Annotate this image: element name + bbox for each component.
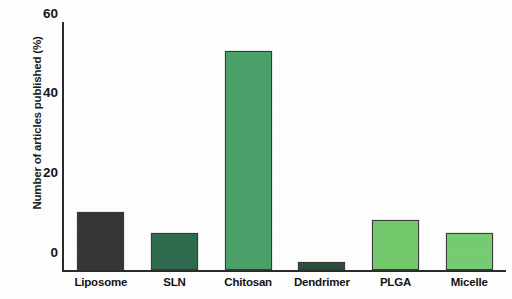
bar-slot-chitosan: [212, 22, 285, 270]
x-tick-sln: SLN: [138, 276, 211, 288]
x-tick-micelle: Micelle: [433, 276, 506, 288]
bar-slot-plga: [359, 22, 432, 270]
x-tick-chitosan: Chitosan: [212, 276, 285, 288]
y-axis-tick-labels: 60 40 20 0: [22, 0, 58, 299]
bar-chitosan: [225, 51, 272, 270]
y-tick-40: 40: [24, 86, 58, 100]
bar-chart-figure: Number of articles published (%) 60 40 2…: [0, 0, 512, 299]
bar-micelle: [446, 233, 493, 270]
x-tick-liposome: Liposome: [64, 276, 137, 288]
bar-slot-sln: [138, 22, 211, 270]
y-tick-0: 0: [24, 246, 58, 260]
bar-plga: [372, 220, 419, 270]
x-tick-dendrimer: Dendrimer: [285, 276, 358, 288]
bar-sln: [151, 233, 198, 270]
y-tick-60: 60: [24, 7, 58, 21]
bar-series: [64, 22, 506, 270]
bar-slot-micelle: [433, 22, 506, 270]
bar-slot-liposome: [64, 22, 137, 270]
x-axis-spine: [62, 270, 506, 272]
bar-dendrimer: [298, 262, 345, 270]
x-axis-tick-labels: LiposomeSLNChitosanDendrimerPLGAMicelle: [64, 276, 506, 288]
x-tick-plga: PLGA: [359, 276, 432, 288]
bar-liposome: [77, 212, 124, 270]
y-tick-20: 20: [24, 166, 58, 180]
plot-area: [62, 22, 506, 272]
bar-slot-dendrimer: [285, 22, 358, 270]
